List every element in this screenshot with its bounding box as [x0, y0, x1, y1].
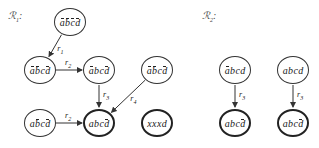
state-node-n11: abcd — [277, 109, 309, 137]
rule-index: 3 — [106, 95, 109, 101]
state-node-n4: abcd — [141, 56, 173, 84]
node-literal: d — [104, 65, 109, 76]
rule-index: 3 — [300, 95, 303, 101]
edge-label: r3 — [239, 90, 245, 101]
node-literal: d — [75, 17, 80, 28]
node-literal: d — [104, 118, 109, 129]
edge-label: r1 — [57, 44, 63, 55]
state-node-n8: abcd — [219, 56, 251, 84]
state-node-n10: abcd — [219, 109, 251, 137]
state-node-n2: abcd — [24, 56, 56, 84]
node-literal: d — [240, 118, 245, 129]
rule-index: 1 — [60, 48, 63, 54]
node-literal: d — [298, 118, 303, 129]
node-literal: d — [45, 118, 50, 129]
edge-label: r3 — [103, 90, 109, 101]
node-literal: d — [298, 65, 303, 76]
edge-label: r3 — [297, 90, 303, 101]
edge-label: r4 — [130, 94, 136, 105]
state-node-n7: xxxd — [141, 109, 173, 137]
state-node-n6: abcd — [83, 109, 115, 137]
state-node-n1: abcd — [54, 8, 86, 36]
rule-index: 4 — [133, 99, 136, 105]
state-node-n9: abcd — [277, 56, 309, 84]
node-literal: d — [240, 65, 245, 76]
node-literal: d — [162, 118, 167, 129]
edge-label: r2 — [65, 111, 71, 122]
rule-index: 2 — [68, 63, 71, 69]
rule-index: 3 — [242, 95, 245, 101]
state-node-n3: abcd — [83, 56, 115, 84]
relation-diagram: ℛ1: ℛ2: abcdabcdabcdabcdabcdabcdxxxdabcd… — [0, 0, 319, 148]
edge-label: r2 — [65, 58, 71, 69]
rule-index: 2 — [68, 116, 71, 122]
state-node-n5: abcd — [24, 109, 56, 137]
node-literal: d — [45, 65, 50, 76]
transition-arrow — [112, 80, 146, 112]
node-literal: d — [162, 65, 167, 76]
relation-r2-title: ℛ2: — [202, 10, 216, 23]
relation-r1-title: ℛ1: — [8, 10, 22, 23]
